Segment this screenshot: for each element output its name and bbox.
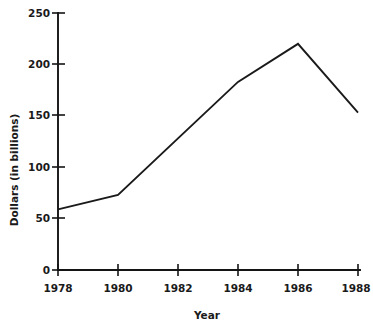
x-tick-label-1980: 1980 bbox=[103, 282, 132, 294]
x-axis-title: Year bbox=[193, 309, 221, 321]
y-tick-label-50: 50 bbox=[35, 212, 50, 224]
y-tick-label-200: 200 bbox=[28, 58, 50, 70]
x-tick-label-1986: 1986 bbox=[283, 282, 312, 294]
y-axis-title: Dollars (in billions) bbox=[8, 114, 20, 226]
x-tick-label-1982: 1982 bbox=[163, 282, 192, 294]
y-tick-label-100: 100 bbox=[28, 161, 50, 173]
chart-canvas: 250 200 150 100 50 0 1978 1980 1982 1984… bbox=[0, 0, 373, 329]
y-tick-label-150: 150 bbox=[28, 109, 50, 121]
x-tick-label-1988: 1988 bbox=[341, 282, 370, 294]
data-series-line bbox=[58, 44, 358, 210]
line-chart-figure: 250 200 150 100 50 0 1978 1980 1982 1984… bbox=[0, 0, 373, 329]
x-tick-label-1984: 1984 bbox=[223, 282, 252, 294]
y-tick-label-0: 0 bbox=[43, 264, 50, 276]
x-tick-label-1978: 1978 bbox=[43, 282, 72, 294]
y-tick-label-250: 250 bbox=[28, 7, 50, 19]
